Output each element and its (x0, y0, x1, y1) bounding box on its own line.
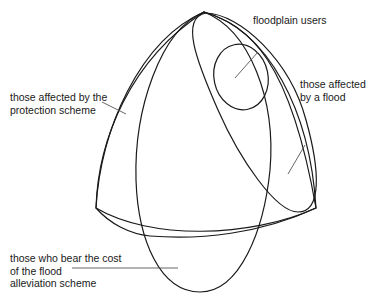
label-cost-bearers: those who bear the cost of the flood all… (10, 252, 122, 290)
label-protection-scheme: those affected by the protection scheme (10, 91, 107, 116)
label-flood-affected: those affected by a flood (300, 78, 366, 103)
floodplain-users-ellipse (208, 39, 275, 115)
leader-floodplain-users (235, 52, 258, 78)
protection-scheme-outline (96, 12, 316, 231)
leader-flood-affected (288, 145, 305, 174)
label-floodplain-users: floodplain users (253, 14, 327, 27)
protection-scheme-region (96, 12, 316, 237)
